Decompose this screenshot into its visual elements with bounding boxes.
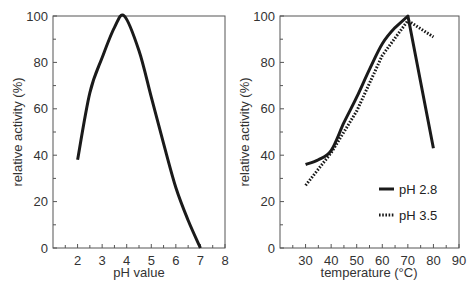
y-tick-label: 60 — [34, 101, 48, 116]
plot-lines — [78, 15, 201, 248]
ph-activity-chart: 020406080100 2345678 pH value relative a… — [10, 9, 229, 281]
x-axis-title: pH value — [113, 265, 164, 280]
y-tick-label: 0 — [268, 241, 275, 256]
y-axis: 020406080100 — [26, 9, 57, 256]
x-tick-label: 2 — [74, 253, 81, 268]
legend-label: pH 2.8 — [399, 182, 437, 197]
x-tick-label: 7 — [197, 253, 204, 268]
x-tick-label: 3 — [99, 253, 106, 268]
y-tick-label: 20 — [261, 194, 275, 209]
legend-label: pH 3.5 — [399, 208, 437, 223]
figure: 020406080100 2345678 pH value relative a… — [0, 0, 476, 290]
legend-item-ph-3-5: pH 3.5 — [379, 208, 437, 223]
x-tick-label: 6 — [172, 253, 179, 268]
y-tick-label: 0 — [41, 241, 48, 256]
series-line-activity-vs-ph — [78, 15, 201, 248]
y-tick-label: 20 — [34, 194, 48, 209]
x-tick-label: 30 — [298, 253, 312, 268]
x-axis-title: temperature (°C) — [321, 265, 418, 280]
y-tick-label: 60 — [261, 101, 275, 116]
plot-lines — [306, 16, 434, 185]
x-tick-label: 80 — [426, 253, 440, 268]
y-tick-label: 40 — [34, 148, 48, 163]
legend: pH 2.8 pH 3.5 — [379, 182, 437, 223]
y-axis: 020406080100 — [253, 9, 284, 256]
y-tick-label: 100 — [253, 9, 275, 24]
y-tick-label: 100 — [26, 9, 48, 24]
y-axis-title: relative activity (%) — [10, 77, 25, 186]
series-line-ph-2-8 — [306, 16, 434, 165]
legend-item-ph-2-8: pH 2.8 — [379, 182, 437, 197]
y-tick-label: 80 — [261, 55, 275, 70]
y-tick-label: 80 — [34, 55, 48, 70]
x-tick-label: 90 — [452, 253, 466, 268]
y-axis-title: relative activity (%) — [237, 77, 252, 186]
y-tick-label: 40 — [261, 148, 275, 163]
temperature-activity-chart: 020406080100 30405060708090 temperature … — [237, 9, 466, 281]
x-tick-label: 8 — [221, 253, 228, 268]
